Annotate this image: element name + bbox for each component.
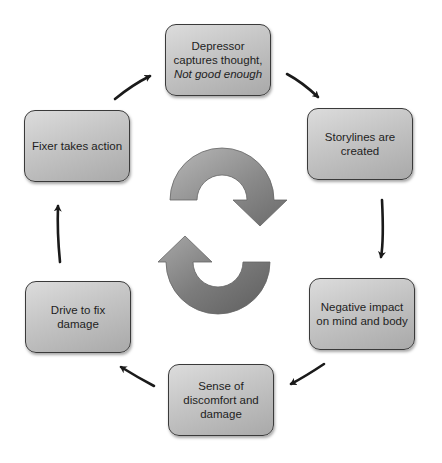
arrow-storylines-to-negative [381,200,383,257]
arrow-negative-to-sense [291,364,324,384]
node-text-line: captures thought, [174,53,263,67]
node-text-line: Storylines are [325,130,395,144]
node-text-line: Drive to fix [51,303,105,317]
center-arrow-bottom-icon [158,236,270,314]
node-text-line: on mind and body [316,314,407,328]
node-text-line: Sense of [198,379,243,393]
node-text-line: Fixer takes action [32,139,122,153]
node-depressor: Depressor captures thought, Not good eno… [165,24,271,96]
node-text-italic: Not good enough [174,67,262,81]
arrow-depressor-to-storylines [287,74,318,97]
node-text-line: damage [57,317,99,331]
node-text-line: Negative impact [321,300,403,314]
node-drive-fix: Drive to fix damage [25,281,131,353]
arrow-sense-to-drive [121,367,154,386]
node-fixer: Fixer takes action [24,110,130,182]
arrow-fixer-to-depressor [115,76,150,99]
node-text-line: Depressor [191,39,244,53]
node-negative-impact: Negative impact on mind and body [309,278,415,350]
node-text-line: discomfort and [183,393,258,407]
node-storylines: Storylines are created [307,108,413,180]
center-arrow-top-icon [170,148,287,226]
node-sense-discomfort: Sense of discomfort and damage [168,364,274,436]
node-text-line: damage [200,407,242,421]
cycle-diagram: Depressor captures thought, Not good eno… [0,0,442,463]
node-text-line: created [341,144,379,158]
arrow-drive-to-fixer [58,206,60,262]
